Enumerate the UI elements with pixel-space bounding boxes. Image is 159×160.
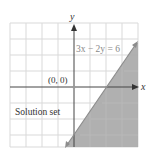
solution-set-label: Solution set [15, 107, 60, 117]
origin-point [72, 85, 75, 88]
origin-label: (0, 0) [48, 75, 68, 85]
y-axis-arrow-icon [71, 24, 77, 31]
inequality-graph: y x (0, 0) 3x − 2y = 6 Solution set [0, 0, 159, 160]
x-axis-label: x [140, 81, 146, 92]
equation-label: 3x − 2y = 6 [76, 44, 120, 54]
y-axis-label: y [69, 11, 75, 22]
